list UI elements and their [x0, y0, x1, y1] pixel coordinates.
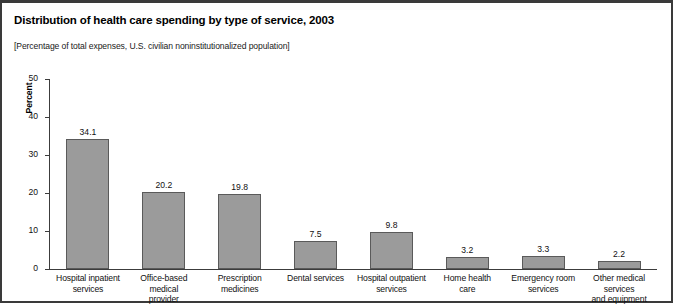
- bar[interactable]: 34.1: [66, 139, 109, 269]
- bar-slot: 3.3: [505, 79, 581, 269]
- plot-area: 01020304050 34.120.219.87.59.83.23.32.2: [49, 79, 657, 269]
- bar-slot: 9.8: [354, 79, 430, 269]
- bar-value-label: 19.8: [231, 182, 248, 192]
- bar-slot: 20.2: [126, 79, 202, 269]
- x-axis-category-label: Hospital inpatientservices: [50, 273, 126, 305]
- y-tick-label: 10: [28, 225, 38, 236]
- y-tick-label: 20: [28, 187, 38, 198]
- bar[interactable]: 3.2: [446, 257, 489, 269]
- x-axis-category-label: Dental services: [278, 273, 354, 305]
- bar-value-label: 3.2: [461, 245, 473, 255]
- page-title: Distribution of health care spending by …: [14, 14, 334, 26]
- x-axis-line: [49, 269, 657, 270]
- bar-slot: 7.5: [278, 79, 354, 269]
- bar-value-label: 7.5: [310, 229, 322, 239]
- y-tick-label: 40: [28, 111, 38, 122]
- y-tick: 40: [45, 117, 49, 118]
- y-tick: 10: [45, 231, 49, 232]
- bar-slot: 34.1: [50, 79, 126, 269]
- y-axis-label-text: Percent: [24, 83, 34, 114]
- y-tick-label: 0: [33, 263, 38, 274]
- bar[interactable]: 9.8: [370, 232, 413, 269]
- bar[interactable]: 3.3: [522, 256, 565, 269]
- bar-slot: 19.8: [202, 79, 278, 269]
- y-tick: 20: [45, 193, 49, 194]
- x-axis-category-label: Prescriptionmedicines: [202, 273, 278, 305]
- x-axis-category-label: Hospital outpatientservices: [354, 273, 430, 305]
- bar[interactable]: 2.2: [598, 261, 641, 269]
- bar-slot: 2.2: [581, 79, 657, 269]
- chart-subtitle: [Percentage of total expenses, U.S. civi…: [14, 41, 290, 51]
- y-tick: 0: [45, 269, 49, 270]
- bar[interactable]: 19.8: [218, 194, 261, 269]
- y-axis-label: Percent: [14, 3, 45, 193]
- bar-value-label: 2.2: [613, 249, 625, 259]
- y-tick: 30: [45, 155, 49, 156]
- bar[interactable]: 7.5: [294, 241, 337, 270]
- bar-slot: 3.2: [429, 79, 505, 269]
- bar-value-label: 34.1: [80, 127, 97, 137]
- bar[interactable]: 20.2: [142, 192, 185, 269]
- x-axis-categories: Hospital inpatientservicesOffice-based m…: [50, 273, 657, 305]
- bar-series: 34.120.219.87.59.83.23.32.2: [50, 79, 657, 269]
- y-tick: 50: [45, 79, 49, 80]
- bar-value-label: 3.3: [537, 244, 549, 254]
- x-axis-category-label: Emergency roomservices: [505, 273, 581, 305]
- x-axis-category-label: Other medical servicesand equipment: [581, 273, 657, 305]
- y-tick-label: 50: [28, 73, 38, 84]
- y-tick-label: 30: [28, 149, 38, 160]
- x-axis-category-label: Office-based medicalprovider: [126, 273, 202, 305]
- bar-value-label: 20.2: [155, 180, 172, 190]
- x-axis-category-label: Home healthcare: [429, 273, 505, 305]
- bar-value-label: 9.8: [385, 220, 397, 230]
